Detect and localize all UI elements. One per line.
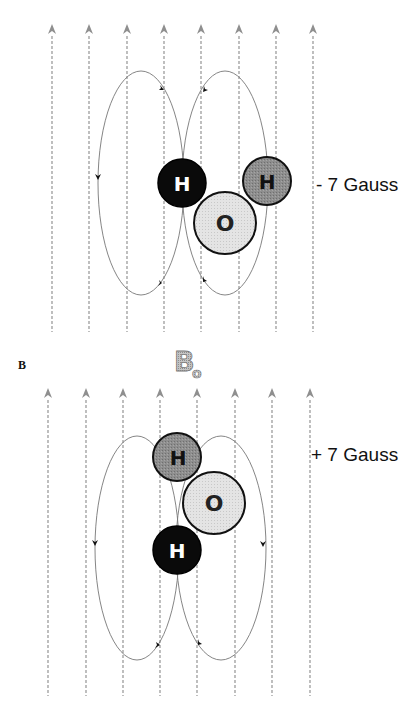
atom-label: O — [205, 491, 224, 516]
diagram-canvas: H H O B o — [0, 0, 416, 711]
panel-b: H O H — [44, 388, 314, 696]
atom-label: H — [174, 172, 191, 196]
field-strength-label-a: - 7 Gauss — [316, 174, 398, 196]
b0-field-symbol: B o — [174, 346, 202, 381]
atom-label: O — [216, 211, 235, 236]
water-molecule-b: H O H — [153, 433, 245, 574]
field-arrowheads-b — [44, 388, 314, 398]
panel-a: H H O — [48, 24, 317, 332]
atom-label: H — [170, 446, 187, 470]
field-strength-label-b: + 7 Gauss — [311, 444, 398, 466]
b0-subscript: o — [192, 365, 202, 381]
atom-label: H — [259, 170, 276, 194]
field-arrowheads-a — [48, 24, 317, 34]
panel-letter-b: B — [18, 358, 26, 373]
atom-label: H — [169, 539, 186, 563]
